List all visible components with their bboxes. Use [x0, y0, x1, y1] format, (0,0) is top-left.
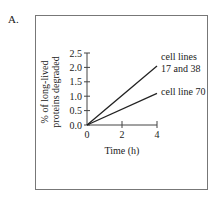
x-tick-label: 4 [155, 129, 160, 140]
y-tick-label: 0.0 [70, 120, 83, 131]
y-tick-label: 2.5 [70, 48, 83, 59]
series-label: cell lines [161, 51, 197, 62]
series-label: cell line 70 [161, 86, 205, 97]
y-axis-label-line: proteins degraded [50, 56, 61, 127]
series-lines [87, 66, 157, 125]
y-tick-label: 2.0 [70, 62, 83, 73]
y-tick-label: 0.5 [70, 105, 83, 116]
y-tick-label: 1.0 [70, 91, 83, 102]
y-axis-label-line: % of long-lived [39, 61, 50, 124]
x-tick-label: 0 [85, 129, 90, 140]
ticks: 0.00.51.01.52.02.5024 [70, 48, 160, 141]
x-tick-label: 2 [120, 129, 125, 140]
chart: 0.00.51.01.52.02.5024 cell lines17 and 3… [0, 0, 222, 200]
x-axis-label: Time (h) [105, 145, 140, 157]
axes [87, 53, 157, 125]
series-labels: cell lines17 and 38cell line 70 [161, 51, 205, 97]
series-label: 17 and 38 [161, 63, 200, 74]
y-axis-label: % of long-livedproteins degraded [39, 56, 61, 127]
series-line [87, 66, 157, 125]
y-tick-label: 1.5 [70, 76, 83, 87]
series-line [87, 93, 157, 125]
